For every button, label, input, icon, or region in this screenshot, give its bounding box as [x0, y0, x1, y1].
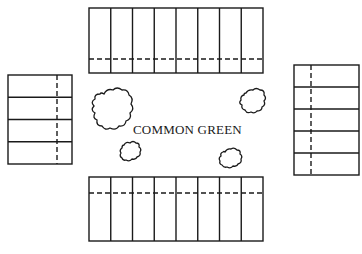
lot-block-bottom: [89, 177, 263, 241]
lot-block-right: [294, 65, 359, 175]
common-green-label: COMMON GREEN: [133, 122, 242, 138]
tree-icon-lower-left: [120, 142, 141, 161]
tree-icon-upper-right: [240, 89, 266, 113]
lot-block-top: [89, 8, 263, 73]
tree-icon-large: [92, 88, 133, 129]
lot-block-left: [8, 75, 72, 164]
tree-icon-lower-right: [219, 148, 242, 168]
